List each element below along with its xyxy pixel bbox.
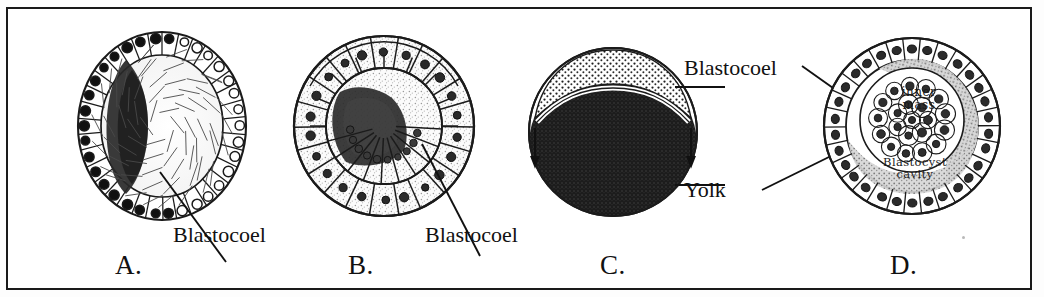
panel-d-inner-mass-label: inner mass [874,86,964,111]
page-speck [962,236,965,239]
panel-a-leader-line [154,166,254,271]
panel-b [288,30,480,222]
panel-a [62,26,262,226]
panel-b-letter: B. [348,250,374,281]
panel-c-yolk-label: Yolk [684,177,726,203]
panel-a-letter: A. [115,250,142,281]
panel-c-blastocoel-label: Blastocoel [684,55,777,81]
panel-c-letter: C. [600,250,626,281]
panel-a-blastocoel-label: Blastocoel [173,222,266,248]
figure-blastula-types: Blastocoel A. [0,0,1044,297]
panel-d-letter: D. [890,250,917,281]
panel-d: inner mass Blastocyst cavity [818,32,1006,220]
panel-d-inner-mass-line2: mass [874,99,964,112]
panel-d-cavity-label: Blastocyst cavity [858,156,972,180]
panel-d-illustration [818,32,1006,220]
panel-d-inner-mass-line1: inner [874,86,964,99]
panel-b-blastocoel-label: Blastocoel [425,222,518,248]
panel-d-cavity-line2: cavity [858,168,972,180]
